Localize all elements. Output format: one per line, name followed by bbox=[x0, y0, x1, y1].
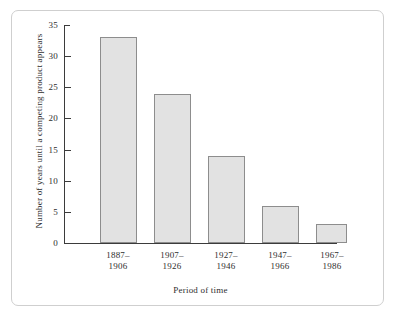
x-tick-label-line-2: 1986 bbox=[302, 261, 362, 272]
y-tick-15 bbox=[65, 150, 71, 151]
y-axis-title: Number of years until a competing produc… bbox=[34, 16, 44, 246]
bar-1907-1926 bbox=[154, 94, 191, 243]
x-tick-label-line-1: 1927– bbox=[196, 250, 256, 261]
y-tick-25 bbox=[65, 87, 71, 88]
y-axis-top-cap bbox=[64, 25, 70, 26]
y-tick-20 bbox=[65, 118, 71, 119]
x-tick-label-line-1: 1887– bbox=[88, 250, 148, 261]
x-tick-label-line-2: 1946 bbox=[196, 261, 256, 272]
y-tick-10 bbox=[65, 181, 71, 182]
figure: 0 5 10 15 20 25 30 35 1887– 1906 1907– 1… bbox=[0, 0, 397, 319]
bar-1927-1946 bbox=[208, 156, 245, 243]
x-tick-label-line-2: 1926 bbox=[142, 261, 202, 272]
bar-1887-1906 bbox=[100, 37, 137, 243]
x-tick-label-1927-1946: 1927– 1946 bbox=[196, 250, 256, 272]
x-tick-label-1907-1926: 1907– 1926 bbox=[142, 250, 202, 272]
x-tick-label-1967-1986: 1967– 1986 bbox=[302, 250, 362, 272]
x-axis-title: Period of time bbox=[64, 285, 337, 295]
x-tick-label-1947-1966: 1947– 1966 bbox=[250, 250, 310, 272]
y-tick-5 bbox=[65, 212, 71, 213]
x-tick-label-line-2: 1966 bbox=[250, 261, 310, 272]
bar-1967-1986 bbox=[316, 224, 347, 243]
y-tick-30 bbox=[65, 56, 71, 57]
bar-1947-1966 bbox=[262, 206, 299, 243]
x-tick-label-1887-1906: 1887– 1906 bbox=[88, 250, 148, 272]
x-tick-label-line-1: 1947– bbox=[250, 250, 310, 261]
x-tick-label-line-1: 1907– bbox=[142, 250, 202, 261]
y-tick-0 bbox=[65, 243, 71, 244]
x-tick-label-line-2: 1906 bbox=[88, 261, 148, 272]
x-axis-line bbox=[64, 243, 337, 244]
plot-area: 0 5 10 15 20 25 30 35 1887– 1906 1907– 1… bbox=[0, 0, 397, 319]
x-tick-label-line-1: 1967– bbox=[302, 250, 362, 261]
